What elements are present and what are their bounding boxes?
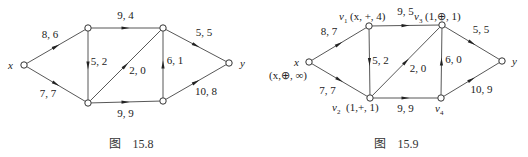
node-v3 bbox=[160, 25, 166, 31]
edge-label: 9, 9 bbox=[397, 102, 414, 114]
figure-15-9: 8, 77, 79, 55, 22, 09, 96, 05, 510, 9x(x… bbox=[269, 5, 517, 152]
arrowhead-icon bbox=[192, 42, 200, 47]
arrowhead-icon bbox=[122, 26, 130, 29]
arrowhead-icon bbox=[335, 42, 343, 47]
edge-label: 5, 5 bbox=[473, 23, 490, 35]
node-v1 bbox=[366, 23, 372, 29]
edge-label: 6, 1 bbox=[167, 54, 184, 66]
network-flow-figures: 8, 67, 79, 45, 22, 09, 96, 15, 510, 8xy图… bbox=[0, 0, 528, 157]
arrowhead-icon bbox=[368, 58, 371, 66]
node-v2 bbox=[85, 100, 91, 106]
node-label-v1: v1 bbox=[339, 10, 348, 25]
edge-label: 7, 7 bbox=[319, 84, 336, 96]
edge-label: 8, 6 bbox=[42, 28, 59, 40]
edge-label: 7, 7 bbox=[40, 87, 57, 99]
arrowhead-icon bbox=[161, 61, 164, 69]
edge-label: 8, 7 bbox=[321, 25, 338, 37]
arrowhead-icon bbox=[52, 44, 60, 49]
edge-label: 5, 2 bbox=[372, 54, 389, 66]
arrowhead-icon bbox=[402, 96, 410, 99]
figure-caption: 图 15.8 bbox=[109, 137, 154, 151]
node-v4 bbox=[438, 95, 444, 101]
node-label-x: x bbox=[7, 59, 13, 71]
edge-label: 5, 5 bbox=[196, 26, 213, 38]
arrowhead-icon bbox=[468, 40, 476, 45]
edge-label: 9, 9 bbox=[117, 107, 134, 119]
node-y bbox=[226, 60, 232, 66]
node-label-x: x bbox=[293, 56, 299, 68]
arrowhead-icon bbox=[440, 58, 443, 66]
node-mark-v3: (1,⊕, 1) bbox=[425, 10, 461, 23]
node-x bbox=[306, 59, 312, 65]
edge-label: 9, 4 bbox=[117, 9, 134, 21]
edge-label: 2, 0 bbox=[129, 64, 146, 76]
edge-label: 10, 8 bbox=[195, 85, 218, 97]
arrowhead-icon bbox=[335, 77, 343, 82]
arrowhead-icon bbox=[121, 101, 129, 104]
node-mark-v1: (x, +, 4) bbox=[350, 10, 386, 23]
node-mark-v2: (1,+, 1) bbox=[346, 101, 379, 114]
node-x bbox=[21, 62, 27, 68]
node-mark-x: (x,⊕, ∞) bbox=[269, 69, 307, 82]
node-label-v2: v2 bbox=[332, 101, 341, 116]
edge-label: 5, 2 bbox=[91, 55, 108, 67]
arrowhead-icon bbox=[52, 81, 60, 86]
node-v1 bbox=[85, 25, 91, 31]
edge-label: 6, 0 bbox=[445, 53, 462, 65]
figure-caption: 图 15.9 bbox=[374, 137, 419, 151]
edge-label: 2, 0 bbox=[410, 62, 427, 74]
node-label-v4: v4 bbox=[435, 102, 444, 117]
arrowhead-icon bbox=[401, 24, 409, 27]
node-v3 bbox=[439, 22, 445, 28]
figure-15-8: 8, 67, 79, 45, 22, 09, 96, 15, 510, 8xy图… bbox=[7, 9, 245, 151]
node-label-y: y bbox=[239, 57, 245, 69]
node-label-y: y bbox=[511, 55, 517, 67]
edge-label: 10, 9 bbox=[471, 83, 494, 95]
edge-label: 9, 5 bbox=[397, 5, 414, 17]
node-y bbox=[499, 58, 505, 64]
node-label-v3: v3 bbox=[414, 10, 423, 25]
arrowhead-icon bbox=[86, 62, 89, 70]
node-v4 bbox=[160, 98, 166, 104]
